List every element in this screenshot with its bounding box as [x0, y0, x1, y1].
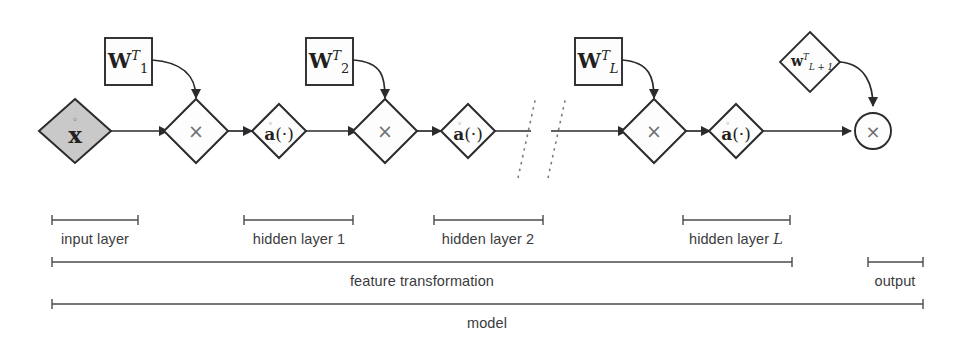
bracket-label-output: output: [875, 273, 916, 289]
hidden-layer-L-text: hidden layer: [689, 231, 773, 247]
diagram-canvas: ◦ x × ◦ aa(·)(·) × ◦ a(·) × ◦ a(·) × WT1…: [0, 0, 969, 343]
bracket-group: [52, 215, 923, 309]
bracket-input-layer: [52, 215, 138, 225]
output-multiply-node-shape: [855, 113, 891, 149]
break-dash-left: [518, 96, 536, 178]
bracket-label-hidden-layer-L: hidden layer L: [689, 231, 783, 247]
edge-weight1-to-multiply1: [152, 60, 196, 98]
edge-weightLplus1-to-output: [840, 62, 873, 106]
bracket-label-hidden-layer-1: hidden layer 1: [253, 231, 346, 247]
bracket-output: [868, 257, 923, 267]
diagram-vector-layer: [0, 0, 969, 343]
multiply-node-1-shape: [164, 99, 228, 163]
activation-node-1-shape: [252, 104, 306, 158]
bracket-label-feature-transformation: feature transformation: [350, 273, 494, 289]
edge-weightL-to-multiplyL: [622, 60, 654, 98]
weight-diamond-L-plus-1-shape: [780, 32, 840, 92]
weight-box-2-shape: [306, 38, 353, 85]
weight-box-L-shape: [575, 38, 622, 85]
sequence-break-dots: [518, 96, 566, 178]
activation-node-L-shape: [709, 104, 763, 158]
multiply-node-L-shape: [622, 99, 686, 163]
input-vector-shape: [39, 99, 111, 163]
break-dash-right: [548, 96, 566, 178]
hidden-layer-L-index: L: [773, 231, 783, 247]
weight-box-1-shape: [105, 38, 152, 85]
edge-weight2-to-multiply2: [353, 60, 385, 98]
bracket-hidden-layer-L: [683, 215, 790, 225]
bracket-hidden-layer-2: [434, 215, 543, 225]
bracket-feature-transformation: [52, 257, 792, 267]
bracket-label-hidden-layer-2: hidden layer 2: [442, 231, 535, 247]
bracket-label-model: model: [467, 315, 507, 331]
bracket-label-input-layer: input layer: [61, 231, 129, 247]
bracket-hidden-layer-1: [244, 215, 353, 225]
multiply-node-2-shape: [353, 99, 417, 163]
bracket-model: [52, 299, 923, 309]
activation-node-2-shape: [441, 104, 495, 158]
